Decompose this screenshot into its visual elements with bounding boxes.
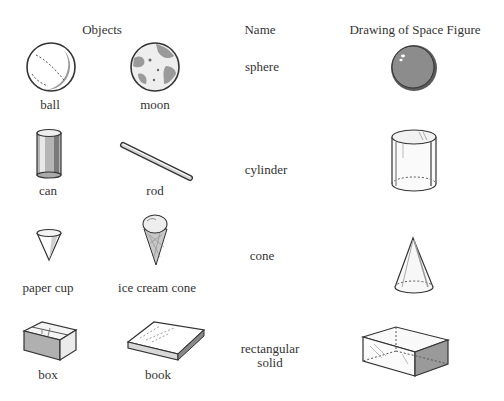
object-label-ball: ball [28,98,72,112]
name-sphere: sphere [238,60,286,74]
cylinder-drawing [389,128,439,194]
object-label-moon: moon [133,98,177,112]
cone-drawing [392,235,436,295]
baseball-icon [24,40,78,94]
object-label-book: book [136,368,180,382]
sphere-drawing [388,42,440,94]
object-label-box: box [26,368,70,382]
object-label-paper-cup: paper cup [14,281,82,295]
rectangular-solid-drawing [360,324,452,380]
name-cylinder: cylinder [238,163,294,177]
header-name: Name [238,23,282,37]
name-solid: solid [232,356,308,370]
header-drawing: Drawing of Space Figure [340,23,490,37]
rod-icon [118,140,196,184]
object-label-rod: rod [133,184,177,198]
can-icon [34,128,64,180]
name-cone: cone [240,249,284,263]
name-rectangular: rectangular [232,342,308,356]
box-icon [20,318,80,362]
object-label-ice-cream-cone: ice cream cone [112,281,202,295]
moon-icon [128,40,182,94]
paper-cup-icon [34,228,64,262]
ice-cream-cone-icon [140,213,170,267]
header-objects: Objects [74,23,130,37]
object-label-can: can [26,184,70,198]
book-icon [124,316,206,362]
